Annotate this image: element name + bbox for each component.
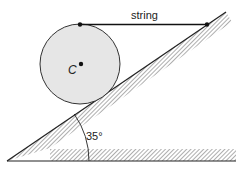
center-dot — [79, 62, 83, 66]
string-end-incline — [205, 22, 209, 26]
ground-hatch — [50, 149, 236, 161]
diagram: C string 35° — [0, 0, 246, 172]
incline-line — [7, 12, 226, 161]
string-label: string — [131, 9, 158, 21]
center-label: C — [68, 63, 77, 77]
string-end-disc — [78, 22, 82, 26]
angle-label: 35° — [86, 130, 103, 142]
